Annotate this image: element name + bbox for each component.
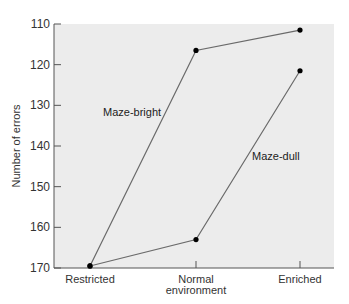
plot-area xyxy=(54,24,334,268)
x-tick-label: Enriched xyxy=(278,273,321,285)
x-tick-label: environment xyxy=(166,284,227,296)
y-tick-label: 120 xyxy=(30,58,50,72)
y-tick-label: 140 xyxy=(30,139,50,153)
data-point xyxy=(87,263,92,268)
line-chart: 110120130140150160170 RestrictedNormalen… xyxy=(0,0,349,304)
annotation-maze-bright: Maze-bright xyxy=(103,106,161,118)
y-tick-label: 150 xyxy=(30,180,50,194)
data-point xyxy=(193,48,198,53)
annotation-maze-dull: Maze-dull xyxy=(252,150,300,162)
x-tick-label: Restricted xyxy=(65,273,115,285)
y-tick-label: 110 xyxy=(31,17,50,31)
y-tick-label: 160 xyxy=(30,220,50,234)
y-axis-title: Number of errors xyxy=(10,104,22,188)
data-point xyxy=(297,68,302,73)
y-tick-label: 170 xyxy=(30,261,50,275)
data-point xyxy=(193,237,198,242)
y-tick-label: 130 xyxy=(30,98,50,112)
data-point xyxy=(297,28,302,33)
